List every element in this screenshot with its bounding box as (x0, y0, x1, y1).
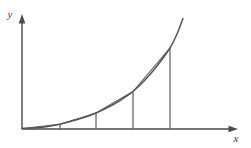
y-axis-label: y (7, 8, 13, 20)
y-axis-arrowhead (19, 14, 26, 24)
x-axis-label: x (233, 132, 239, 144)
chord-4 (133, 48, 170, 92)
ordinate-lines-group (60, 48, 170, 129)
figure-canvas: y x (0, 0, 251, 148)
function-curve (22, 19, 183, 129)
figure-svg: y x (0, 0, 251, 148)
axes-group (19, 14, 238, 132)
